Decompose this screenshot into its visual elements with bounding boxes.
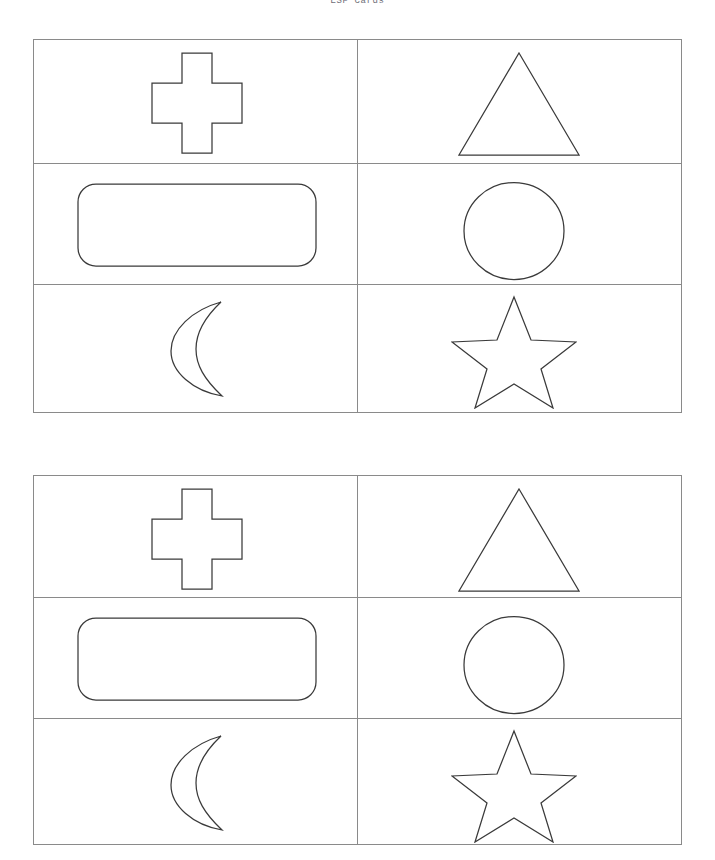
shape-triangle (358, 40, 682, 163)
card-cell-rounded-rectangle[interactable] (34, 164, 358, 284)
table-row (34, 476, 681, 598)
esp-cards-page: ESP Cards (0, 0, 715, 860)
shape-rounded-rectangle (34, 164, 357, 284)
card-cell-circle[interactable] (358, 164, 682, 284)
table-row (34, 719, 681, 844)
shape-cross (34, 476, 357, 597)
table-row (34, 164, 681, 285)
shape-cross (34, 40, 357, 163)
shape-crescent-moon (34, 285, 357, 412)
shape-crescent-moon (34, 719, 357, 844)
table-row (34, 285, 681, 412)
card-cell-star[interactable] (358, 719, 682, 844)
table-row (34, 598, 681, 719)
shape-circle (358, 598, 682, 718)
shape-circle (358, 164, 682, 284)
esp-card-sheet-2 (33, 475, 682, 845)
card-cell-circle[interactable] (358, 598, 682, 718)
card-cell-triangle[interactable] (358, 40, 682, 163)
card-cell-triangle[interactable] (358, 476, 682, 597)
esp-card-sheet-1 (33, 39, 682, 413)
card-cell-star[interactable] (358, 285, 682, 412)
shape-star (358, 719, 682, 844)
card-cell-crescent-moon[interactable] (34, 719, 358, 844)
shape-star (358, 285, 682, 412)
page-title: ESP Cards (0, 0, 715, 6)
card-cell-rounded-rectangle[interactable] (34, 598, 358, 718)
card-cell-cross[interactable] (34, 40, 358, 163)
card-cell-crescent-moon[interactable] (34, 285, 358, 412)
card-cell-cross[interactable] (34, 476, 358, 597)
shape-triangle (358, 476, 682, 597)
shape-rounded-rectangle (34, 598, 357, 718)
table-row (34, 40, 681, 164)
